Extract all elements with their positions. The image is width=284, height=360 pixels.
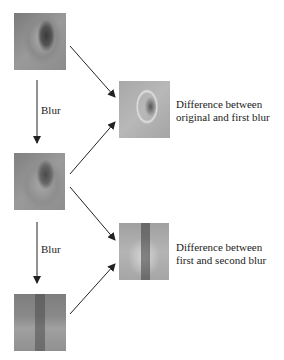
diff2-caption-line1: Difference between (176, 241, 266, 254)
diff1-caption-line2: original and first blur (176, 111, 270, 124)
blur-label-2: Blur (41, 243, 61, 256)
diff2-caption-line2: first and second blur (176, 254, 266, 267)
arrow-blur1-to-diff1 (70, 122, 115, 174)
arrow-blur1-to-diff2 (70, 187, 115, 240)
blur-label-1: Blur (41, 104, 61, 117)
arrow-original-to-diff1 (70, 46, 115, 97)
arrow-blur2-to-diff2 (70, 264, 115, 314)
diff2-caption: Difference between first and second blur (176, 241, 266, 267)
diff1-caption: Difference between original and first bl… (176, 98, 270, 124)
diff1-caption-line1: Difference between (176, 98, 270, 111)
arrows-layer (0, 0, 284, 360)
